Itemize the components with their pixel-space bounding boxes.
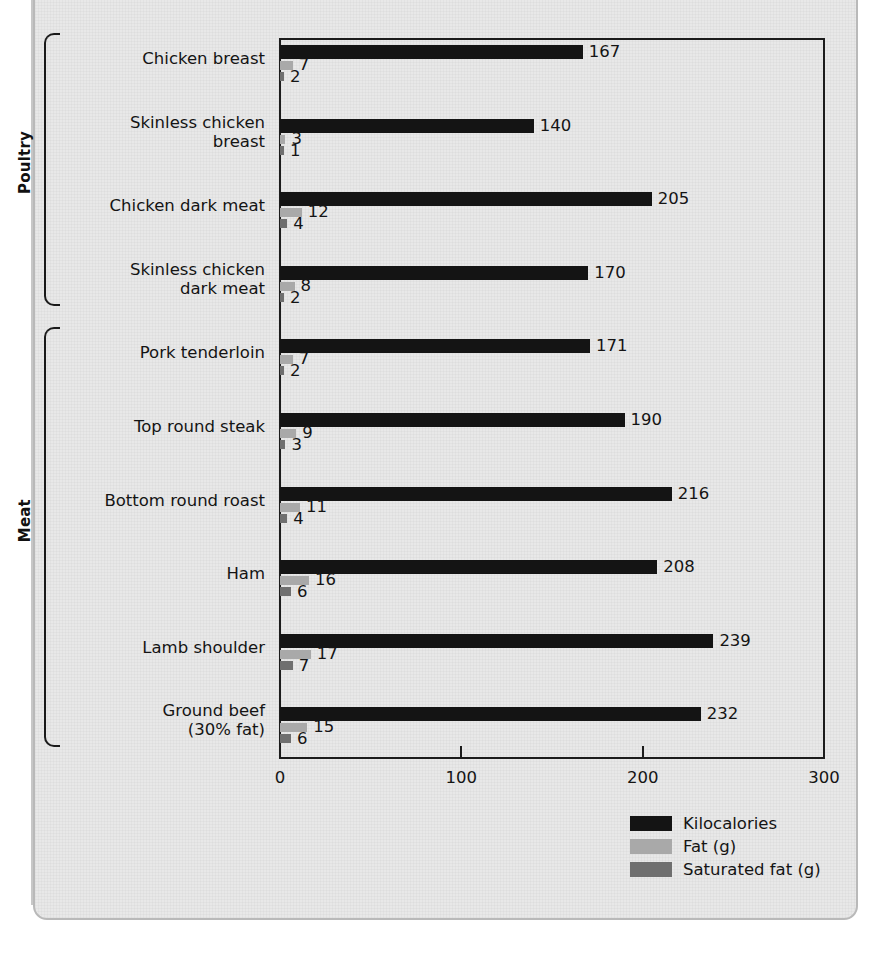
category-label-line1: Bottom round roast [65, 491, 265, 510]
bar-value-label: 239 [719, 633, 751, 650]
bar-fat-1 [280, 135, 285, 144]
bar-kcal-8 [280, 634, 713, 648]
bar-sat-6 [280, 514, 287, 523]
bar-kcal-5 [280, 413, 625, 427]
x-tick [642, 746, 644, 757]
bar-value-label: 6 [297, 584, 308, 601]
bar-value-label: 9 [302, 425, 313, 442]
bar-value-label: 4 [293, 216, 304, 233]
category-label-2: Chicken dark meat [65, 196, 265, 215]
category-label-7: Ham [65, 564, 265, 583]
bar-kcal-4 [280, 339, 590, 353]
bar-value-label: 205 [658, 191, 690, 208]
category-label-9: Ground beef(30% fat) [65, 701, 265, 739]
legend-label: Fat (g) [683, 837, 736, 856]
bar-value-label: 3 [291, 437, 302, 454]
bar-value-label: 17 [317, 646, 338, 663]
bar-sat-5 [280, 440, 285, 449]
bar-sat-7 [280, 587, 291, 596]
legend-swatch-icon [630, 816, 672, 831]
grouped-bar-chart: PoultryMeat Chicken breastSkinless chick… [0, 0, 885, 964]
plot-area-frame [279, 38, 825, 759]
x-tick-label: 100 [446, 768, 478, 787]
category-label-5: Top round steak [65, 417, 265, 436]
bar-sat-0 [280, 72, 284, 81]
bar-value-label: 12 [308, 204, 329, 221]
legend-item-0: Kilocalories [630, 812, 821, 835]
x-tick [460, 746, 462, 757]
group-title-meat: Meat [16, 499, 34, 542]
bar-value-label: 140 [540, 118, 572, 135]
x-tick-label: 200 [627, 768, 659, 787]
legend-swatch-icon [630, 862, 672, 877]
bar-value-label: 208 [663, 559, 695, 576]
legend-swatch-icon [630, 839, 672, 854]
legend-label: Kilocalories [683, 814, 777, 833]
bar-sat-9 [280, 734, 291, 743]
bar-value-label: 8 [301, 278, 312, 295]
bar-value-label: 2 [290, 69, 301, 86]
bar-value-label: 15 [313, 719, 334, 736]
bar-kcal-3 [280, 266, 588, 280]
bar-kcal-0 [280, 45, 583, 59]
category-label-line1: Chicken dark meat [65, 196, 265, 215]
x-tick-label: 300 [808, 768, 840, 787]
category-label-0: Chicken breast [65, 49, 265, 68]
bar-value-label: 16 [315, 572, 336, 589]
bar-value-label: 171 [596, 338, 628, 355]
bar-value-label: 216 [678, 486, 710, 503]
bar-sat-1 [280, 146, 284, 155]
category-label-line2: dark meat [65, 279, 265, 298]
bar-sat-3 [280, 293, 284, 302]
bar-value-label: 2 [290, 363, 301, 380]
bar-value-label: 11 [306, 499, 327, 516]
bar-kcal-9 [280, 707, 701, 721]
category-label-line2: breast [65, 132, 265, 151]
category-label-8: Lamb shoulder [65, 638, 265, 657]
category-label-6: Bottom round roast [65, 491, 265, 510]
group-bracket-poultry [44, 33, 60, 306]
bar-sat-4 [280, 366, 284, 375]
category-label-3: Skinless chickendark meat [65, 260, 265, 298]
category-label-line1: Skinless chicken [65, 113, 265, 132]
category-label-line1: Chicken breast [65, 49, 265, 68]
group-title-poultry: Poultry [16, 131, 34, 194]
bar-kcal-1 [280, 119, 534, 133]
legend-item-1: Fat (g) [630, 835, 821, 858]
category-label-line1: Lamb shoulder [65, 638, 265, 657]
figure-page: PoultryMeat Chicken breastSkinless chick… [0, 0, 885, 964]
legend-label: Saturated fat (g) [683, 860, 821, 879]
category-label-line1: Top round steak [65, 417, 265, 436]
bar-value-label: 7 [299, 658, 310, 675]
category-label-1: Skinless chickenbreast [65, 113, 265, 151]
bar-value-label: 6 [297, 731, 308, 748]
category-label-line1: Skinless chicken [65, 260, 265, 279]
category-label-line1: Ham [65, 564, 265, 583]
category-label-line1: Pork tenderloin [65, 343, 265, 362]
bar-value-label: 167 [589, 44, 621, 61]
bar-value-label: 1 [290, 143, 301, 160]
bar-kcal-2 [280, 192, 652, 206]
bar-value-label: 190 [631, 412, 663, 429]
bar-kcal-7 [280, 560, 657, 574]
bar-sat-8 [280, 661, 293, 670]
bar-sat-2 [280, 219, 287, 228]
legend-item-2: Saturated fat (g) [630, 858, 821, 881]
group-bracket-meat [44, 327, 60, 747]
bar-value-label: 232 [707, 706, 739, 723]
bar-value-label: 170 [594, 265, 626, 282]
category-label-line2: (30% fat) [65, 720, 265, 739]
bar-value-label: 4 [293, 511, 304, 528]
x-tick-label: 0 [275, 768, 286, 787]
chart-legend: KilocaloriesFat (g)Saturated fat (g) [630, 812, 821, 881]
category-label-4: Pork tenderloin [65, 343, 265, 362]
category-label-line1: Ground beef [65, 701, 265, 720]
bar-kcal-6 [280, 487, 672, 501]
bar-value-label: 2 [290, 290, 301, 307]
